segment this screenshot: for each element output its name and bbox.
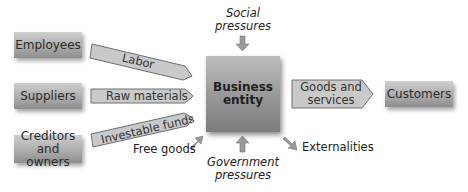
creditors-box: Creditors and owners xyxy=(14,135,82,163)
goods-services-label: Goods and services xyxy=(298,81,364,107)
government-pressures-arrow-icon xyxy=(236,136,249,152)
customers-box: Customers xyxy=(385,81,453,107)
suppliers-box: Suppliers xyxy=(14,83,82,109)
customers-label: Customers xyxy=(387,88,452,101)
government-line2: pressures xyxy=(206,169,280,182)
business-entity-line2: entity xyxy=(213,94,273,107)
suppliers-label: Suppliers xyxy=(20,90,76,103)
externalities-label: Externalities xyxy=(302,141,374,154)
employees-label: Employees xyxy=(15,39,81,52)
free-goods-label: Free goods xyxy=(133,143,196,156)
social-pressures-label: Social pressures xyxy=(212,7,274,33)
raw-materials-label: Raw materials xyxy=(106,89,188,103)
government-pressures-label: Government pressures xyxy=(206,156,280,182)
social-line2: pressures xyxy=(212,20,274,33)
externalities-arrow-icon xyxy=(283,137,297,150)
creditors-label-line1: Creditors and xyxy=(14,130,82,156)
creditors-label-line2: owners xyxy=(26,156,69,169)
business-entity-box: Business entity xyxy=(206,56,280,132)
social-pressures-arrow-icon xyxy=(236,36,249,51)
employees-box: Employees xyxy=(14,32,82,58)
goods-line2: services xyxy=(298,94,364,107)
